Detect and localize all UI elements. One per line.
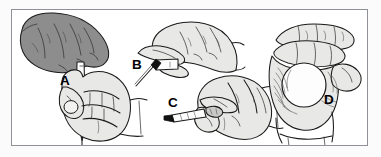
figure-root: A: [0, 0, 381, 157]
panel-d-illustration: [258, 10, 368, 146]
panel-label-a: A: [60, 74, 70, 88]
panel-label-c: C: [168, 96, 178, 110]
figure-frame-border: A: [11, 9, 368, 146]
panel-label-b: B: [132, 58, 142, 72]
hand-d: [269, 24, 361, 146]
panel-label-d: D: [324, 93, 334, 107]
panel-d: D: [258, 10, 368, 146]
upper-shaded-hand-a: [20, 13, 108, 73]
ball-object-d: [282, 63, 326, 107]
